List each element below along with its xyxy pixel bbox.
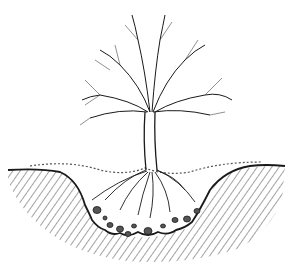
illustration [0,0,289,272]
tree-trunk [144,112,157,170]
tree-roots [92,170,195,218]
surrounding-soil [8,166,285,262]
tree-planting-drawing [0,0,289,272]
